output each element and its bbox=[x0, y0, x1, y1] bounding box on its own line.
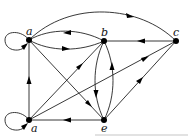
edge-b-to-a-top bbox=[29, 30, 104, 41]
edge-e-to-c bbox=[104, 41, 176, 120]
edge-e-to-b bbox=[104, 41, 115, 120]
label-e: e bbox=[101, 122, 108, 135]
edge-a-top-to-b bbox=[29, 40, 104, 51]
edge-loop-a-bottom bbox=[5, 113, 29, 131]
directed-graph: a b c a e bbox=[0, 0, 188, 138]
label-c: c bbox=[173, 26, 179, 39]
edge-e-to-a-bottom bbox=[29, 118, 104, 123]
label-a-top: a bbox=[26, 25, 33, 38]
edge-a-bottom-to-c bbox=[29, 41, 176, 120]
label-a-bottom: a bbox=[31, 122, 38, 135]
edge-c-to-b bbox=[104, 39, 176, 44]
label-b: b bbox=[101, 26, 108, 39]
edge-a-bottom-to-a-top bbox=[27, 40, 32, 120]
